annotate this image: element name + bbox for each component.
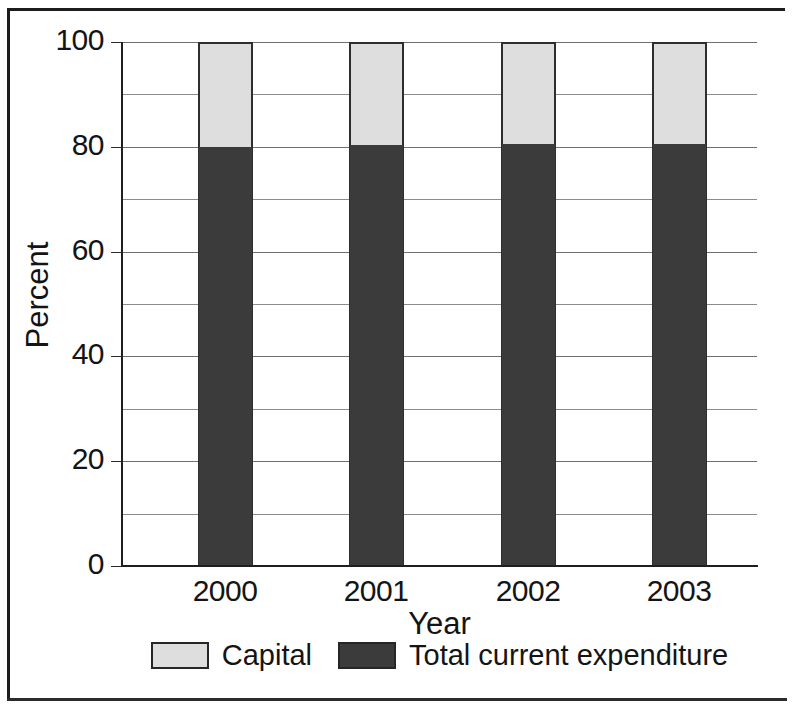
x-tick-label-2002: 2002 (458, 574, 598, 608)
bar-segment-capital-2000[interactable] (198, 42, 253, 147)
bar-segment-total-current-expenditure-2003[interactable] (652, 144, 707, 566)
y-tick-100 (111, 42, 121, 43)
y-tick-80 (111, 147, 121, 148)
bar-2002[interactable] (501, 42, 556, 566)
legend-label-capital: Capital (222, 640, 312, 671)
y-tick-20 (111, 461, 121, 462)
y-axis-title: Percent (21, 195, 55, 395)
x-axis-title: Year (122, 607, 757, 641)
y-tick-60 (111, 252, 121, 253)
bar-segment-total-current-expenditure-2000[interactable] (198, 147, 253, 566)
legend-label-total-current-expenditure: Total current expenditure (409, 640, 728, 671)
legend-item-capital[interactable]: Capital (151, 640, 312, 671)
x-tick-label-2000: 2000 (155, 574, 295, 608)
plot-area (122, 42, 757, 566)
bar-segment-capital-2001[interactable] (349, 42, 404, 145)
bar-2000[interactable] (198, 42, 253, 566)
y-tick-0 (111, 566, 121, 567)
x-axis-line (121, 565, 758, 567)
stacked-bar-chart: 100 80 60 40 20 0 Percent 2000 2001 2002… (0, 0, 801, 715)
legend-swatch-total-current-expenditure (338, 642, 396, 669)
y-tick-label-80: 80 (34, 130, 104, 160)
legend-item-total-current-expenditure[interactable]: Total current expenditure (338, 640, 728, 671)
bar-2003[interactable] (652, 42, 707, 566)
y-tick-label-100: 100 (34, 25, 104, 55)
bar-segment-total-current-expenditure-2002[interactable] (501, 144, 556, 566)
y-tick-40 (111, 356, 121, 357)
bar-segment-capital-2003[interactable] (652, 42, 707, 144)
x-tick-label-2001: 2001 (306, 574, 446, 608)
x-tick-label-2003: 2003 (609, 574, 749, 608)
y-tick-label-20: 20 (34, 444, 104, 474)
y-axis-line (121, 42, 123, 567)
bar-2001[interactable] (349, 42, 404, 566)
bar-segment-capital-2002[interactable] (501, 42, 556, 144)
y-tick-label-0: 0 (34, 549, 104, 579)
legend-swatch-capital (151, 642, 209, 669)
scanned-page: 100 80 60 40 20 0 Percent 2000 2001 2002… (0, 0, 801, 715)
chart-legend: Capital Total current expenditure (122, 640, 757, 671)
bar-segment-total-current-expenditure-2001[interactable] (349, 145, 404, 566)
